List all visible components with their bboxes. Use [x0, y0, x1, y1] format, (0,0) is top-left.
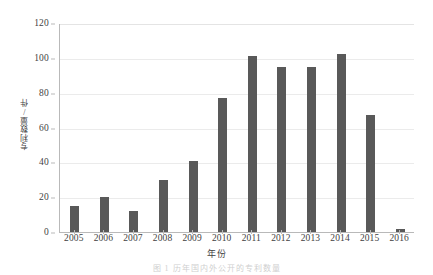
x-tick-mark	[74, 230, 75, 234]
x-tick-mark	[163, 230, 164, 234]
y-tick-mark	[51, 24, 55, 25]
x-tick-label: 2010	[212, 234, 231, 244]
x-tick-label: 2012	[271, 234, 290, 244]
x-tick-mark	[399, 230, 400, 234]
bar	[100, 197, 109, 232]
x-tick-mark	[251, 230, 252, 234]
x-axis-ticks: 2005200620072008200920102011201220132014…	[59, 234, 414, 248]
x-tick-mark	[133, 230, 134, 234]
bar	[129, 211, 138, 232]
y-tick-mark	[51, 198, 55, 199]
x-tick-label: 2005	[64, 234, 83, 244]
y-tick-mark	[51, 58, 55, 59]
bar-chart-figure: 专利数量/件 020406080100120 20052006200720082…	[0, 0, 433, 275]
x-tick-label: 2016	[390, 234, 409, 244]
y-tick-label: 120	[34, 19, 49, 29]
x-tick-label: 2014	[330, 234, 349, 244]
figure-caption: 图 1 历年国内外公开的专利数量	[0, 262, 433, 273]
x-tick-label: 2007	[123, 234, 142, 244]
x-tick-mark	[310, 230, 311, 234]
bar	[159, 180, 168, 232]
bar	[366, 115, 375, 232]
bar	[218, 98, 227, 232]
y-axis-ticks: 020406080100120	[0, 24, 55, 233]
x-tick-mark	[222, 230, 223, 234]
x-tick-label: 2013	[301, 234, 320, 244]
x-tick-label: 2015	[360, 234, 379, 244]
x-axis-title: 年份	[0, 247, 433, 260]
x-tick-label: 2011	[242, 234, 261, 244]
bar	[396, 229, 405, 232]
y-tick-label: 20	[39, 193, 49, 203]
bar-series	[60, 24, 414, 232]
bar	[337, 54, 346, 232]
x-tick-mark	[340, 230, 341, 234]
x-tick-label: 2006	[94, 234, 113, 244]
y-tick-label: 0	[44, 228, 49, 238]
bar	[70, 206, 79, 232]
x-tick-mark	[281, 230, 282, 234]
x-tick-label: 2008	[153, 234, 172, 244]
x-tick-label: 2009	[182, 234, 201, 244]
x-tick-mark	[192, 230, 193, 234]
bar	[248, 56, 257, 232]
y-tick-label: 80	[39, 89, 49, 99]
y-tick-mark	[51, 233, 55, 234]
y-tick-label: 40	[39, 159, 49, 169]
y-tick-mark	[51, 93, 55, 94]
plot-area	[59, 24, 414, 233]
bar	[189, 161, 198, 232]
x-tick-mark	[370, 230, 371, 234]
bar	[307, 67, 316, 232]
x-tick-mark	[103, 230, 104, 234]
y-tick-mark	[51, 128, 55, 129]
y-tick-label: 60	[39, 124, 49, 134]
y-tick-label: 100	[34, 54, 49, 64]
y-tick-mark	[51, 163, 55, 164]
bar	[277, 67, 286, 232]
